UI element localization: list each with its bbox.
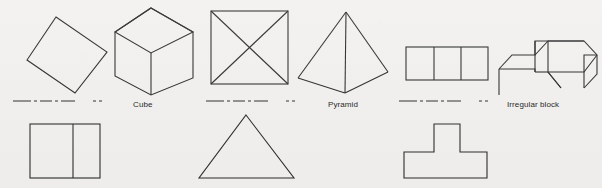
three-cells-outline bbox=[406, 47, 488, 80]
irregular-block-edge bbox=[535, 41, 584, 55]
irregular-block-edge bbox=[584, 55, 597, 88]
geometric-shapes-figure: CubePyramidIrregular block bbox=[0, 0, 602, 188]
shape-divided-rectangle bbox=[30, 124, 100, 178]
shape-pyramid bbox=[298, 12, 388, 93]
shape-triangle bbox=[199, 115, 294, 178]
irregular-block-edge bbox=[548, 41, 561, 88]
irregular-block-edge bbox=[499, 41, 535, 69]
irregular-block-edge bbox=[548, 72, 561, 88]
shape-tilted-square bbox=[27, 17, 107, 93]
pyramid-front-left-base bbox=[298, 78, 345, 93]
shape-label-pyramid: Pyramid bbox=[328, 100, 358, 109]
shape-irregular-block bbox=[499, 41, 597, 95]
shape-t-block bbox=[404, 124, 487, 178]
shape-three-cells bbox=[406, 47, 488, 80]
pyramid-front-right-base bbox=[345, 72, 388, 93]
shape-label-irregular_block: Irregular block bbox=[507, 100, 559, 109]
pyramid-left-edge bbox=[298, 12, 346, 78]
cube-top-face bbox=[115, 8, 193, 53]
divided-rectangle-outline bbox=[30, 124, 100, 178]
irregular-block-edge bbox=[499, 69, 535, 72]
line-drawing-canvas bbox=[0, 0, 602, 188]
pyramid-center-edge bbox=[345, 12, 346, 93]
shape-label-cube: Cube bbox=[133, 100, 153, 109]
irregular-block-edge bbox=[535, 41, 597, 88]
shape-cube bbox=[115, 8, 193, 95]
irregular-block-edge bbox=[548, 55, 597, 72]
pyramid-right-edge bbox=[346, 12, 388, 72]
shape-square-with-diagonals bbox=[211, 11, 288, 84]
